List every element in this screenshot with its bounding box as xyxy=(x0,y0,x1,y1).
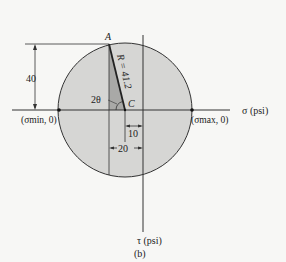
dim-40-label: 40 xyxy=(26,73,36,84)
sigma-min-label: (σmin, 0) xyxy=(21,115,57,126)
sigma-min-point xyxy=(57,108,61,112)
arrowhead xyxy=(33,104,37,110)
sigma-axis-label: σ (psi) xyxy=(242,105,268,117)
sigma-max-label: (σmax, 0) xyxy=(191,115,228,126)
figure-caption: (b) xyxy=(134,248,146,260)
tau-axis-label-visible: τ (psi) xyxy=(137,235,162,247)
dim-20-label: 20 xyxy=(118,143,128,154)
point-a-label: A xyxy=(104,31,112,42)
center-point-c xyxy=(124,109,126,111)
angle-label: 2θ xyxy=(91,94,101,105)
sigma-max-point xyxy=(190,108,194,112)
mohrs-circle-diagram: A C R = 41.2 2θ 40 10 20 (σmin, 0) (σmax… xyxy=(0,0,286,262)
point-c-label: C xyxy=(128,98,135,109)
arrowhead xyxy=(33,44,37,50)
dim-10-label: 10 xyxy=(128,128,138,139)
